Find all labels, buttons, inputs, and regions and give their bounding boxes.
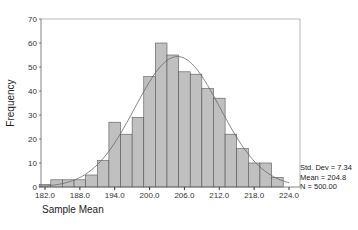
x-tick-label: 188.0 <box>70 191 91 200</box>
std-dev-label: Std. Dev = 7.34 <box>300 163 352 173</box>
n-label: N = 500.00 <box>300 182 352 192</box>
histogram-bar <box>190 74 202 187</box>
histogram-bar <box>109 122 121 187</box>
x-tick-label: 200.0 <box>140 191 161 200</box>
y-tick-label: 40 <box>28 87 37 96</box>
y-tick-label: 70 <box>28 15 37 24</box>
histogram-bar <box>74 180 86 187</box>
histogram-bar <box>248 163 260 187</box>
x-axis-title: Sample Mean <box>42 204 104 215</box>
x-tick-label: 218.0 <box>244 191 265 200</box>
histogram-bar <box>121 134 133 187</box>
mean-label: Mean = 204.8 <box>300 173 352 183</box>
histogram-bar <box>237 149 249 187</box>
histogram-bar <box>97 161 109 187</box>
histogram-bars <box>39 43 283 187</box>
histogram-bar <box>213 98 225 187</box>
x-tick-label: 206.0 <box>174 191 195 200</box>
y-tick-label: 30 <box>28 111 37 120</box>
y-tick-label: 50 <box>28 63 37 72</box>
x-axis-ticks: 182.0188.0194.0200.0206.0212.0218.0224.0 <box>35 187 300 200</box>
y-axis-title: Frequency <box>5 79 16 126</box>
y-tick-label: 20 <box>28 135 37 144</box>
x-tick-label: 182.0 <box>35 191 56 200</box>
stats-legend: Std. Dev = 7.34 Mean = 204.8 N = 500.00 <box>300 163 352 192</box>
x-tick-label: 194.0 <box>105 191 126 200</box>
histogram-bar <box>167 55 179 187</box>
histogram-bar <box>179 72 191 187</box>
x-tick-label: 212.0 <box>209 191 230 200</box>
histogram-bar <box>86 175 98 187</box>
histogram-bar <box>132 117 144 187</box>
histogram-bar <box>51 180 63 187</box>
histogram-chart: 010203040506070 182.0188.0194.0200.0206.… <box>0 0 358 230</box>
y-tick-label: 10 <box>28 159 37 168</box>
histogram-bar <box>225 134 237 187</box>
histogram-bar <box>155 43 167 187</box>
histogram-bar <box>260 163 272 187</box>
histogram-bar <box>202 89 214 187</box>
x-tick-label: 224.0 <box>279 191 300 200</box>
y-axis-ticks: 010203040506070 <box>28 15 41 192</box>
y-tick-label: 60 <box>28 39 37 48</box>
histogram-bar <box>144 77 156 187</box>
